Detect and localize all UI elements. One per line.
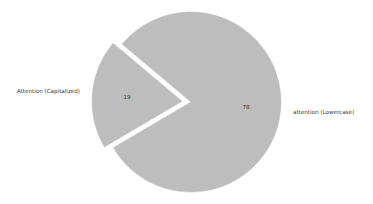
category-label-lowercase: attention (Lowercase)	[293, 109, 354, 115]
value-label-capitalized: 19	[123, 94, 131, 100]
pie-chart: 19 78 Attention (Capitalized) attention …	[0, 0, 373, 204]
value-label-lowercase: 78	[242, 104, 250, 110]
category-label-capitalized: Attention (Capitalized)	[17, 88, 80, 95]
